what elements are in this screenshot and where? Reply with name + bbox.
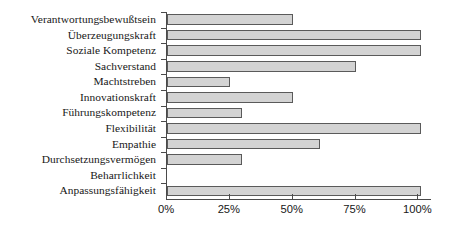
category-label: Sachverstand <box>0 59 160 75</box>
bar-row <box>166 59 430 75</box>
bar <box>167 30 421 41</box>
plot-area: 0%25%50%75%100% <box>166 12 430 199</box>
bar-chart: Verantwortungsbewußtsein Überzeugungskra… <box>0 0 449 225</box>
category-label: Machtstreben <box>0 74 160 90</box>
bar <box>167 108 242 119</box>
category-axis-labels: Verantwortungsbewußtsein Überzeugungskra… <box>0 12 160 199</box>
y-axis-tick <box>161 137 166 138</box>
category-label: Verantwortungsbewußtsein <box>0 12 160 28</box>
category-label: Überzeugungskraft <box>0 28 160 44</box>
y-axis-tick <box>161 74 166 75</box>
bar-row <box>166 137 430 153</box>
y-axis-tick <box>161 106 166 107</box>
category-label: Empathie <box>0 137 160 153</box>
bar-row <box>166 28 430 44</box>
y-axis-tick <box>161 121 166 122</box>
category-label: Soziale Kompetenz <box>0 43 160 59</box>
y-axis-tick <box>161 43 166 44</box>
y-axis-tick <box>161 183 166 184</box>
x-axis-tick-label: 50% <box>281 203 303 216</box>
bar-row <box>166 90 430 106</box>
bar-row <box>166 152 430 168</box>
x-axis-tick <box>292 194 293 200</box>
bar <box>167 139 320 150</box>
x-axis-tick-label: 0% <box>158 203 174 216</box>
category-label: Durchsetzungsvermögen <box>0 152 160 168</box>
bar <box>167 92 293 103</box>
x-axis-tick <box>355 194 356 200</box>
x-axis-tick <box>417 194 418 200</box>
bar <box>167 186 421 197</box>
x-axis-tick <box>166 194 167 200</box>
y-axis-tick <box>161 59 166 60</box>
bar-row <box>166 43 430 59</box>
bar-row <box>166 121 430 137</box>
y-axis-tick <box>161 90 166 91</box>
y-axis-tick <box>161 152 166 153</box>
x-axis-line <box>166 199 431 200</box>
category-label: Beharrlichkeit <box>0 168 160 184</box>
x-axis-tick-label: 100% <box>403 203 432 216</box>
bar <box>167 45 421 56</box>
category-label: Führungskompetenz <box>0 105 160 121</box>
bar-row <box>166 12 430 28</box>
y-axis-tick <box>161 12 166 13</box>
y-axis-tick <box>161 28 166 29</box>
y-axis-tick <box>161 168 166 169</box>
x-axis-tick <box>229 194 230 200</box>
category-label: Anpassungsfähigkeit <box>0 183 160 199</box>
category-label: Innovationskraft <box>0 90 160 106</box>
bar <box>167 14 293 25</box>
bar <box>167 77 230 88</box>
bar-row <box>166 168 430 184</box>
category-label: Flexibilität <box>0 121 160 137</box>
bar-row <box>166 74 430 90</box>
x-axis-tick-label: 75% <box>343 203 365 216</box>
bar-row <box>166 183 430 199</box>
bar <box>167 154 242 165</box>
bar-row <box>166 106 430 122</box>
bar <box>167 61 356 72</box>
x-axis-tick-label: 25% <box>218 203 240 216</box>
bar <box>167 123 421 134</box>
